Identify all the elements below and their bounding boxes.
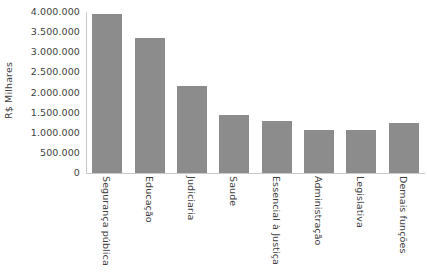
y-axis-title: R$ Milhares [0,0,18,180]
x-axis-tick-label: Essencial à Justiça [269,176,283,276]
bar [177,86,207,173]
y-axis-tick-label: 3.500.000 [31,27,80,37]
x-axis-tick-labels: Segurança públicaEducaçãoJudiciariaSaude… [86,176,425,276]
x-axis-line [86,173,425,174]
y-axis-tick-labels: 4.000.0003.500.0003.000.0002.500.0002.00… [18,0,84,185]
x-axis-tick-label: Legislativa [353,176,367,276]
x-axis-tick-label: Educação [142,176,156,276]
x-axis-tick-label: Saude [226,176,240,276]
y-axis-tick-label: 1.500.000 [31,108,80,118]
y-axis-tick-label: 3.000.000 [31,47,80,57]
y-axis-tick-label: 1.000.000 [31,128,80,138]
y-axis-tick-label: 2.500.000 [31,67,80,77]
y-axis-tick-label: 500.000 [40,148,80,158]
x-axis-tick-label: Segurança pública [99,176,113,276]
y-axis-tick-label: 0 [74,168,80,178]
plot-area [86,12,425,174]
bar [346,130,376,173]
x-axis-tick-label: Demais funções [396,176,410,276]
x-axis-tick-label: Judiciaria [184,176,198,276]
bar-chart: R$ Milhares 4.000.0003.500.0003.000.0002… [0,0,427,276]
bar [92,14,122,173]
y-axis-title-text: R$ Milhares [4,61,15,118]
bar [135,38,165,173]
bar [389,123,419,173]
y-axis-tick-label: 4.000.000 [31,7,80,17]
y-axis-line [86,12,87,174]
y-axis-tick-label: 2.000.000 [31,88,80,98]
x-axis-tick-label: Administração [311,176,325,276]
bar [262,121,292,173]
bar [304,130,334,173]
bar [219,115,249,173]
